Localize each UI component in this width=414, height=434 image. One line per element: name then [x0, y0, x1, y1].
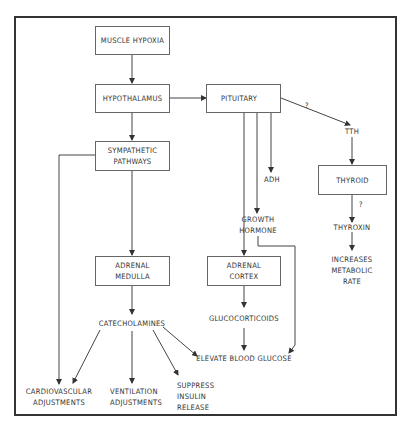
- hypoxia-response-diagram: MUSCLE HYPOXIA HYPOTHALAMUS PITUITARY SY…: [0, 0, 414, 434]
- node-cardio-line1: CARDIOVASCULAR: [24, 386, 94, 397]
- node-adh: ADH: [262, 174, 282, 185]
- node-pituitary: PITUITARY: [206, 84, 281, 113]
- node-thyroxin: THYROXIN: [330, 222, 374, 233]
- node-thyroid: THYROID: [318, 165, 387, 195]
- node-adrenal-cortex-line1: ADRENAL: [227, 260, 261, 271]
- node-adrenal-cortex-line2: CORTEX: [230, 271, 259, 282]
- node-elevate-blood-glucose: ELEVATE BLOOD GLUCOSE: [196, 353, 292, 364]
- node-increases-line2: METABOLIC: [326, 265, 378, 276]
- node-muscle-hypoxia: MUSCLE HYPOXIA: [95, 26, 170, 55]
- node-growth-hormone-line1: GROWTH: [236, 214, 280, 225]
- node-cardiovascular-adjustments: CARDIOVASCULAR ADJUSTMENTS: [24, 386, 94, 408]
- node-catecholamines: CATECHOLAMINES: [96, 318, 168, 329]
- node-pituitary-label: PITUITARY: [221, 93, 257, 104]
- node-sympathetic-line2: PATHWAYS: [114, 156, 152, 167]
- node-glucocorticoids: GLUCOCORTICOIDS: [207, 313, 281, 324]
- node-adrenal-cortex: ADRENAL CORTEX: [207, 256, 281, 286]
- node-growth-hormone-line2: HORMONE: [236, 225, 280, 236]
- node-suppress-insulin-release: SUPPRESS INSULIN RELEASE: [177, 380, 217, 413]
- node-increases-line3: RATE: [326, 276, 378, 287]
- node-growth-hormone: GROWTH HORMONE: [236, 214, 280, 236]
- node-ventilation-adjustments: VENTILATION ADJUSTMENTS: [110, 386, 156, 408]
- node-suppress-line2: INSULIN: [177, 391, 217, 402]
- annotation-thyroid-thyroxin-question: ?: [357, 199, 365, 210]
- node-hypothalamus-label: HYPOTHALAMUS: [103, 93, 163, 104]
- node-muscle-hypoxia-label: MUSCLE HYPOXIA: [101, 35, 164, 46]
- node-adrenal-medulla-line1: ADRENAL: [115, 260, 149, 271]
- node-thyroid-label: THYROID: [336, 175, 369, 186]
- node-vent-line1: VENTILATION: [110, 386, 156, 397]
- node-vent-line2: ADJUSTMENTS: [110, 397, 156, 408]
- node-tth: TTH: [342, 126, 362, 137]
- node-cardio-line2: ADJUSTMENTS: [24, 397, 94, 408]
- node-suppress-line3: RELEASE: [177, 402, 217, 413]
- node-increases-metabolic-rate: INCREASES METABOLIC RATE: [326, 254, 378, 287]
- annotation-pituitary-tth-question: ?: [303, 100, 311, 111]
- connector-arrows: [0, 0, 414, 434]
- node-adrenal-medulla: ADRENAL MEDULLA: [95, 256, 170, 286]
- node-sympathetic-line1: SYMPATHETIC: [108, 145, 157, 156]
- node-suppress-line1: SUPPRESS: [177, 380, 217, 391]
- node-sympathetic-pathways: SYMPATHETIC PATHWAYS: [95, 141, 170, 171]
- node-adrenal-medulla-line2: MEDULLA: [115, 271, 150, 282]
- node-increases-line1: INCREASES: [326, 254, 378, 265]
- node-hypothalamus: HYPOTHALAMUS: [95, 84, 170, 113]
